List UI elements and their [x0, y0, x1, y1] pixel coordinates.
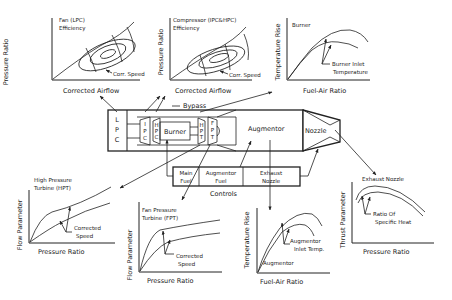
hpt-title-1: High Pressure	[34, 177, 72, 184]
hpt-chart: Flow Parameter High Pressure Turbine (HP…	[16, 177, 115, 256]
fan-note: Corr. Speed	[113, 71, 145, 78]
burner-note-1: Burner Inlet	[332, 61, 365, 67]
noz-note-2: Specific Heat	[375, 219, 412, 226]
aug-xlabel: Fuel-Air Ratio	[260, 278, 303, 286]
controls-panel: Main Fuel Augmentor Fuel Exhaust Nozzle …	[173, 167, 300, 198]
svg-text:T: T	[199, 134, 204, 140]
control-augmentor-fuel-2: Fuel	[215, 178, 227, 184]
burner-label: Burner	[164, 128, 186, 136]
hpt-xlabel: Pressure Ratio	[38, 248, 85, 256]
fpt-ylabel: Flow Parameter	[126, 229, 134, 280]
fan-efficiency-contour	[99, 48, 116, 60]
svg-text:F: F	[211, 120, 214, 126]
fan-map-chart: Pressure Ratio Fan (LPC) Efficiency Corr…	[2, 17, 145, 95]
nozzle-label: Nozzle	[305, 127, 326, 135]
svg-text:P: P	[115, 126, 119, 134]
control-augmentor-fuel-1: Augmentor	[206, 170, 237, 177]
nozzle-chart: Thrust Parameter Exhaust Nozzle Ratio Of…	[339, 176, 434, 256]
control-main-fuel-1: Main	[179, 170, 193, 176]
aug-ylabel: Temperature Rise	[243, 212, 251, 270]
aug-title: Augmentor	[263, 260, 294, 267]
svg-text:L: L	[115, 116, 119, 124]
bypass-label: Bypass	[183, 102, 207, 110]
control-exhaust-nozzle-1: Exhaust	[260, 170, 283, 176]
engine-performance-diagram: Pressure Ratio Fan (LPC) Efficiency Corr…	[0, 0, 452, 300]
hpt-axes	[29, 190, 115, 243]
noz-note-1: Ratio Of	[373, 211, 396, 217]
fpt-chart: Flow Parameter Fan Pressure Turbine (FPT…	[126, 202, 222, 285]
comp-xlabel: Corrected Airflow	[175, 87, 232, 95]
fpt-title-2: Turbine (FPT)	[141, 215, 178, 221]
engine-schematic: Bypass L P C I P C H P C Burner	[108, 102, 340, 151]
comp-speed-arrow	[220, 71, 228, 74]
aug-note-1: Augmentor	[290, 238, 321, 245]
noz-title: Exhaust Nozzle	[362, 176, 405, 182]
burner-xlabel: Fuel-Air Ratio	[303, 87, 346, 95]
comp-title-1: Compressor (IPC&HPC)	[173, 17, 236, 24]
svg-text:T: T	[210, 134, 215, 140]
hpt-note-2: Speed	[76, 233, 93, 240]
fan-ylabel: Pressure Ratio	[2, 39, 10, 86]
svg-text:C: C	[143, 135, 147, 141]
svg-text:C: C	[115, 136, 120, 144]
noz-ylabel: Thrust Parameter	[339, 191, 347, 249]
augmentor-label: Augmentor	[248, 125, 285, 133]
noz-xlabel: Pressure Ratio	[363, 248, 410, 256]
comp-note: Corr. Speed	[229, 72, 261, 79]
burner-note-2: Temperature	[332, 69, 368, 76]
hpt-title-1: Turbine (HPT)	[33, 185, 71, 191]
compressor-map-chart: Pressure Ratio Compressor (IPC&HPC) Effi…	[157, 17, 261, 95]
comp-efficiency-contour	[197, 46, 239, 72]
fan-speed-arrow	[106, 70, 112, 73]
fan-xlabel: Corrected Airflow	[63, 87, 120, 95]
fpt-title-1: Fan Pressure	[142, 207, 177, 213]
fpt-note-1: Corrected	[176, 253, 203, 259]
control-exhaust-nozzle-2: Nozzle	[262, 178, 281, 184]
hpt-note-1: Corrected	[74, 225, 101, 231]
comp-title-2: Efficiency	[173, 25, 200, 32]
burner-ylabel: Temperature Rise	[274, 24, 282, 82]
hpt-label: H P T	[199, 122, 204, 140]
comp-ylabel: Pressure Ratio	[157, 29, 165, 76]
burner-title: Burner	[292, 22, 311, 28]
comp-speed-line	[200, 55, 206, 76]
hpt-ylabel: Flow Parameter	[16, 199, 24, 250]
fpt-xlabel: Pressure Ratio	[147, 277, 194, 285]
fpt-label: F P T	[210, 120, 215, 140]
fan-title-2: Efficiency	[59, 25, 86, 32]
comp-speed-line	[244, 34, 249, 60]
fpt-note-2: Speed	[178, 261, 195, 268]
aug-note-2: Inlet Temp.	[294, 246, 325, 253]
augmentor-chart: Temperature Rise Augmentor Inlet Temp. A…	[243, 208, 330, 286]
burner-chart: Temperature Rise Burner Burner Inlet Tem…	[274, 18, 370, 95]
svg-text:C: C	[155, 134, 159, 140]
fan-title-1: Fan (LPC)	[59, 17, 85, 23]
controls-title: Controls	[210, 190, 237, 198]
